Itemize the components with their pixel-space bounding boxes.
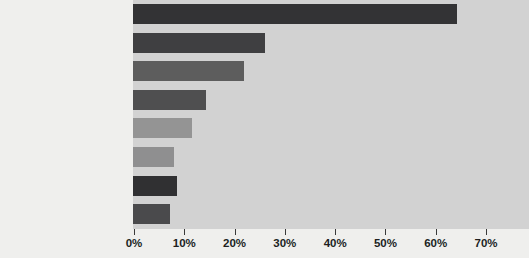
bar[interactable]	[133, 147, 174, 167]
x-tick-mark	[134, 229, 135, 235]
bar-row: High reimbursement %	[133, 143, 529, 172]
bar[interactable]	[133, 118, 192, 138]
bar-row: Ambulatory coverage	[133, 114, 529, 143]
x-tick-label: 30%	[262, 237, 308, 249]
x-tick-label: 10%	[161, 237, 207, 249]
x-tick-label: 70%	[463, 237, 509, 249]
x-tick-label: 50%	[362, 237, 408, 249]
x-tick-mark	[385, 229, 386, 235]
bar-row: Hospitalization	[133, 0, 529, 29]
x-tick-label: 60%	[413, 237, 459, 249]
x-tick-label: 20%	[212, 237, 258, 249]
bar-row: Consult reimbursement	[133, 29, 529, 58]
bar[interactable]	[133, 4, 457, 24]
x-tick-label: 0%	[111, 237, 157, 249]
x-tick-mark	[486, 229, 487, 235]
x-tick-mark	[335, 229, 336, 235]
x-tick-mark	[285, 229, 286, 235]
x-tick-mark	[235, 229, 236, 235]
bar[interactable]	[133, 90, 206, 110]
bar-row: Exams/x-rays/lab tests	[133, 57, 529, 86]
x-tick-mark	[184, 229, 185, 235]
bar-chart: Hospitalization Consult reimbursement Ex…	[0, 0, 529, 258]
x-tick-mark	[436, 229, 437, 235]
bar-row: Can choose clinic	[133, 200, 529, 229]
bar[interactable]	[133, 204, 170, 224]
bar[interactable]	[133, 33, 265, 53]
bar-row: Serious illness	[133, 172, 529, 201]
bar-row: General medicine	[133, 86, 529, 115]
bar[interactable]	[133, 61, 244, 81]
bar[interactable]	[133, 176, 177, 196]
x-axis: 0%10%20%30%40%50%60%70%	[133, 229, 529, 258]
plot-area: Hospitalization Consult reimbursement Ex…	[133, 0, 529, 229]
x-tick-label: 40%	[312, 237, 358, 249]
